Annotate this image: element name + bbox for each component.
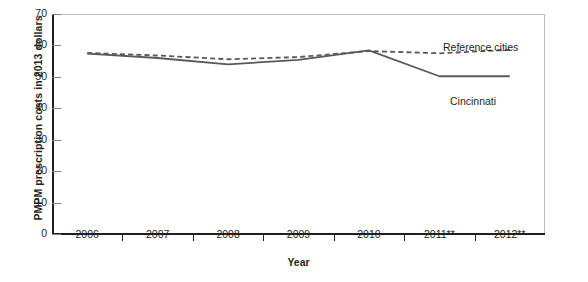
y-tick-label: 60 xyxy=(35,38,47,50)
x-tick-mark xyxy=(122,234,123,241)
y-tick-label: 30 xyxy=(35,133,47,145)
series-line-cincinnati xyxy=(87,50,510,76)
x-axis-title: Year xyxy=(52,256,545,268)
y-tick-label: 20 xyxy=(35,164,47,176)
series-annotation-reference-cities: Reference cities xyxy=(443,41,518,53)
x-tick-label: 2011** xyxy=(424,228,455,240)
chart-figure: PMPM prescription costs in 2013 dollars … xyxy=(0,0,588,282)
x-tick-mark xyxy=(404,234,405,241)
y-tick-label: 10 xyxy=(35,196,47,208)
x-tick-mark xyxy=(334,234,335,241)
x-tick-mark xyxy=(263,234,264,241)
y-tick-label: 0 xyxy=(41,227,47,239)
y-tick-label: 70 xyxy=(35,7,47,19)
y-tick: 0 xyxy=(52,234,61,235)
y-tick-label: 50 xyxy=(35,70,47,82)
x-tick-label: 2008 xyxy=(216,228,239,240)
x-tick-label: 2012** xyxy=(494,228,526,240)
y-tick-label: 40 xyxy=(35,101,47,113)
x-tick-mark xyxy=(475,234,476,241)
plot-area: 010203040506070 Reference cities Cincinn… xyxy=(52,14,545,234)
x-tick-label: 2009 xyxy=(287,228,310,240)
y-tick-mark xyxy=(52,234,61,235)
x-tick-label: 2007 xyxy=(146,228,169,240)
series-annotation-cincinnati: Cincinnati xyxy=(450,95,496,107)
x-tick-mark xyxy=(193,234,194,241)
x-tick-label: 2010 xyxy=(357,228,380,240)
x-tick-label: 2006 xyxy=(76,228,99,240)
